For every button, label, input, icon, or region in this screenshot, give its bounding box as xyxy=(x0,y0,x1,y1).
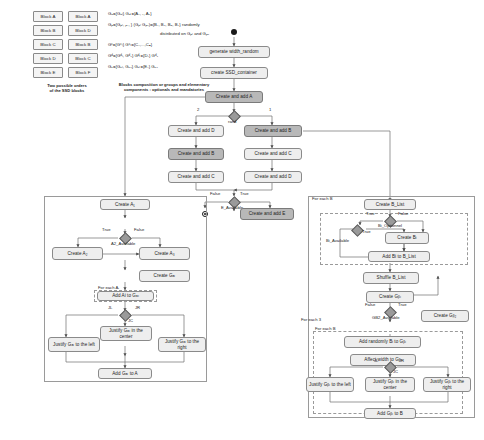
add-gal-node[interactable]: Add Gₐₗ to A xyxy=(98,368,152,379)
block-item: Block F xyxy=(68,67,98,78)
jc-label-right: JC xyxy=(393,370,398,375)
order-caption: Two possible orders of the SSD blocks xyxy=(28,83,106,93)
left-chain-node-1[interactable]: Create and add B xyxy=(168,148,224,160)
jc-label: JC xyxy=(128,319,133,324)
create-a1-node[interactable]: Create A₁ xyxy=(100,199,150,210)
jr-label: JR xyxy=(135,306,140,311)
for-each-b-top-label: For each B xyxy=(312,197,332,202)
bi-optionnel-label: Bi_Optionnel xyxy=(378,224,402,229)
create-a3-node[interactable]: Create A₃ xyxy=(139,247,190,260)
add-gbl-node[interactable]: Add Gᵦₗ to B xyxy=(364,408,416,419)
justify-right-node-right[interactable]: Justify Gᵦₗ to the right xyxy=(423,377,471,392)
block-item: Block D xyxy=(33,53,63,64)
diagram-canvas: Block A Block B Block C Block D Block E … xyxy=(0,0,484,440)
justify-left-node[interactable]: Justify Gₐₗ to the left xyxy=(48,337,100,352)
left-chain-node-0[interactable]: Create and add D xyxy=(168,125,224,137)
branch-left-label: 2 xyxy=(197,108,199,113)
a2-available-label: A2_Available xyxy=(111,242,135,247)
block-item: Block D xyxy=(68,25,98,36)
opt-false-label: False xyxy=(398,212,408,217)
formula-line: Gᵦ={Gᵦₗ, ᵦ₁, } (Gᵦₗ Gᵦ₂)={B₁, B₂, B₃, B₄… xyxy=(108,22,200,28)
create-blist-node[interactable]: Create B_List xyxy=(364,199,416,210)
generate-width-random-node[interactable]: generate width_random xyxy=(198,46,270,58)
right-chain-node-1[interactable]: Create and add C xyxy=(244,148,302,160)
create-gal-node[interactable]: Create Gₐₗ xyxy=(139,270,190,282)
gb2-available-label: GB2_Available xyxy=(372,316,400,321)
opt-true-label: True xyxy=(366,212,374,217)
branch-center-label: rand xyxy=(228,120,236,125)
create-ssd-container-node[interactable]: create SSD_container xyxy=(200,67,268,79)
gb2-false-label: False xyxy=(365,303,375,308)
left-subgraph-frame xyxy=(44,196,207,382)
a2-true-label: True xyxy=(102,228,110,233)
a2-false-label: False xyxy=(134,228,144,233)
justify-center-node-right[interactable]: Justify Gᵦₗ in the center xyxy=(365,377,415,392)
block-item: Block A xyxy=(33,11,63,22)
right-chain-node-2[interactable]: Create and add D xyxy=(244,171,302,183)
formula-line: Gₐ={Gₐₗ} Gₐₗ={A₁, ₁, A₂} xyxy=(108,11,152,17)
avail-true-label: True xyxy=(362,230,370,235)
create-bi-node[interactable]: Create Bᵢ xyxy=(385,232,429,244)
shuffle-blist-node[interactable]: Shuffle B_List xyxy=(363,272,419,284)
jr-label-right: JR xyxy=(399,359,404,364)
formula-line: Gᶜ={Gᶜₗ} Gᶜₗ={C₁,...,Cₙ} xyxy=(108,42,152,48)
e-true-label: True xyxy=(240,192,248,197)
formula-line: Gᵈ={Gᵈₗ, Gᵈ₂} Gᵈₗ={D₁} Gᵈ₂ xyxy=(108,53,158,59)
gb2-true-label: True xyxy=(398,303,406,308)
jl-label: JL xyxy=(108,306,112,311)
justify-left-node-right[interactable]: Justify Gᵦₗ to the left xyxy=(306,377,354,392)
branch-right-label: 1 xyxy=(269,108,271,113)
formula-line: distributed on Gᵦₗ and Gᵦ₂ xyxy=(160,31,209,37)
block-item: Block A xyxy=(68,11,98,22)
create-a2-node[interactable]: Create A₂ xyxy=(52,247,103,260)
create-gb2-node[interactable]: Create Gᵦ₂ xyxy=(421,310,469,322)
start-node xyxy=(231,29,237,35)
block-item: Block C xyxy=(33,39,63,50)
bi-available-label: Bi_Available xyxy=(326,239,349,244)
add-bi-node[interactable]: Add Bi to B_List xyxy=(368,251,430,262)
justify-center-node[interactable]: Justify Gₐₗ in the center xyxy=(100,326,152,341)
create-and-add-e-node[interactable]: Create and add E xyxy=(240,208,294,220)
block-item: Block B xyxy=(68,39,98,50)
for-each-3-label: For each 3 xyxy=(301,318,321,323)
left-chain-node-2[interactable]: Create and add C xyxy=(168,171,224,183)
block-item: Block B xyxy=(33,25,63,36)
justify-right-node[interactable]: Justify Gₐₗ to the right xyxy=(158,337,206,352)
formula-line: Gₑ={Gₑₗ, Gₑ₂} Gₑₗ={E₁} Gₑ₂ xyxy=(108,64,158,70)
e-false-label: False xyxy=(210,192,220,197)
block-item: Block E xyxy=(33,67,63,78)
jl-label-right: JL xyxy=(374,359,378,364)
block-item: Block C xyxy=(68,53,98,64)
affect-width-node[interactable]: Affect width to Gᵦₗ xyxy=(350,354,416,366)
right-chain-node-0[interactable]: Create and add B xyxy=(244,125,302,137)
add-ai-node[interactable]: Add Ai to Gₐₗ xyxy=(97,291,154,301)
create-and-add-a-node[interactable]: Create and add A xyxy=(205,91,263,103)
add-randomly-bi-node[interactable]: Add randomly Bᵢ to Gᵦₗ xyxy=(344,336,421,348)
